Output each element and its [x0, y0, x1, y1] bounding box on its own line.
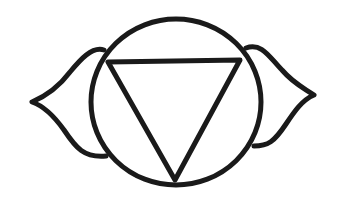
- inverted-triangle: [108, 60, 240, 180]
- outer-circle: [91, 19, 261, 185]
- ajna-chakra-figure: Ajna chakra symbol: [0, 0, 339, 210]
- chakra-symbol-icon: [0, 0, 339, 210]
- left-petal: [32, 49, 106, 156]
